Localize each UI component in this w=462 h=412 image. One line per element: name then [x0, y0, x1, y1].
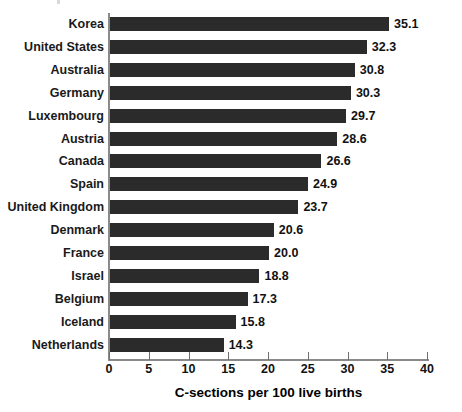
x-tick-mark: [268, 352, 269, 360]
x-tick-mark: [109, 352, 110, 360]
x-tick-mark: [189, 352, 190, 360]
x-tick-label: 40: [407, 362, 447, 376]
x-tick-mark: [427, 352, 428, 360]
x-tick-label: 35: [367, 362, 407, 376]
x-tick-label: 25: [288, 362, 328, 376]
x-tick-mark: [308, 352, 309, 360]
x-tick-label: 5: [129, 362, 169, 376]
bar-chart: Korea35.1United States32.3Australia30.8G…: [0, 0, 462, 412]
x-tick-label: 0: [89, 362, 129, 376]
x-tick-mark: [149, 352, 150, 360]
x-tick-mark: [348, 352, 349, 360]
x-tick-label: 10: [169, 362, 209, 376]
x-tick-label: 30: [328, 362, 368, 376]
x-tick-label: 20: [248, 362, 288, 376]
x-axis-ticks: 0510152025303540: [0, 0, 462, 412]
x-axis-title: C-sections per 100 live births: [109, 385, 428, 400]
x-tick-mark: [387, 352, 388, 360]
x-tick-label: 15: [208, 362, 248, 376]
x-tick-mark: [228, 352, 229, 360]
